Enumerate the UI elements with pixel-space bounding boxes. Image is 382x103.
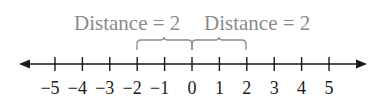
distance-label-right: Distance = 2 xyxy=(204,11,310,35)
tick-label: −2 xyxy=(123,78,142,98)
tick-label: 4 xyxy=(297,78,306,98)
tick-label: 1 xyxy=(215,78,224,98)
distance-braces xyxy=(137,37,246,50)
tick-label: 2 xyxy=(242,78,251,98)
tick-labels: −5−4−3−2−1012345 xyxy=(40,78,333,98)
left-arrow-icon xyxy=(19,60,30,69)
brace-right xyxy=(192,37,246,50)
tick-label: −3 xyxy=(95,78,114,98)
tick-label: 0 xyxy=(188,78,197,98)
tick-label: −1 xyxy=(150,78,169,98)
right-arrow-icon xyxy=(356,60,367,69)
brace-left xyxy=(137,37,192,50)
tick-label: −5 xyxy=(40,78,59,98)
distance-label-left: Distance = 2 xyxy=(74,11,180,35)
number-line-diagram: −5−4−3−2−1012345 Distance = 2 Distance =… xyxy=(0,0,382,103)
tick-label: 5 xyxy=(325,78,334,98)
tick-label: 3 xyxy=(270,78,279,98)
tick-label: −4 xyxy=(68,78,87,98)
